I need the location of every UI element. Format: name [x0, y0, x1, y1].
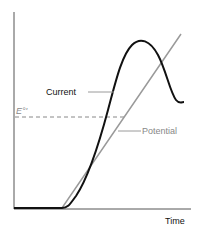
potential-line	[14, 34, 181, 208]
current-label: Current	[46, 87, 77, 97]
e0-label: E°'	[16, 106, 28, 116]
potential-label: Potential	[142, 126, 177, 136]
x-axis-label: Time	[165, 216, 185, 226]
chart: Current Potential E°' Time	[0, 0, 204, 229]
